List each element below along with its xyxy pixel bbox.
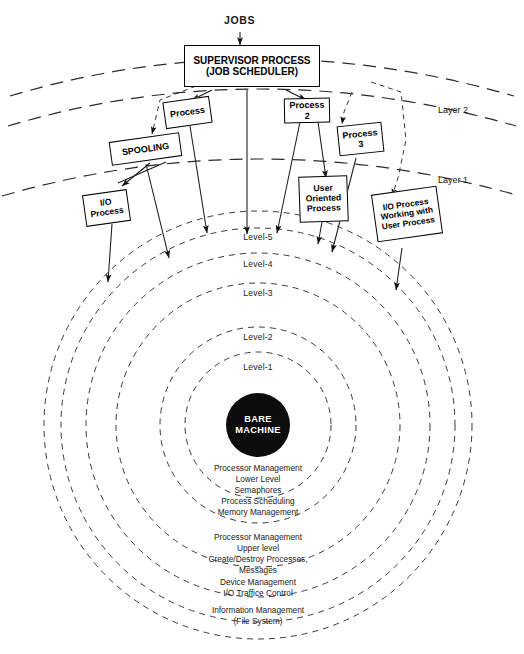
user-oriented-process-box[interactable]: User Oriented Process xyxy=(298,175,349,223)
line-spooling-io-b xyxy=(118,162,166,183)
dashed-process3-connector xyxy=(342,92,352,124)
l3-line-1: Processor Management xyxy=(208,532,307,543)
io-process-user-box[interactable]: I/O Process Working with User Process xyxy=(371,186,443,243)
core-line-1: BARE xyxy=(235,414,280,425)
process-label: Process xyxy=(169,105,205,120)
io-process-line-2: Process xyxy=(90,206,124,220)
process-3-box[interactable]: Process 3 xyxy=(337,122,385,157)
ring-label-level-2: Level-2 xyxy=(243,332,273,342)
ring-label-level-1: Level-1 xyxy=(243,362,273,372)
process-2-box[interactable]: Process 2 xyxy=(284,98,330,124)
arrow-spooling-ring xyxy=(146,164,169,258)
ring-label-level-5: Level-5 xyxy=(243,232,273,242)
l1-line-4: Process Scheduling xyxy=(214,496,302,507)
supervisor-line-1: SUPERVISOR PROCESS xyxy=(193,55,310,66)
level-5-description: Information Management (File System) xyxy=(212,605,304,627)
l5-line-1: Information Management xyxy=(212,605,304,616)
l4-line-2: I/O Traffice Control xyxy=(220,588,296,599)
l2-line-1: Memory Management xyxy=(218,507,299,518)
arrow-process2-user xyxy=(318,122,326,178)
supervisor-process-box[interactable]: SUPERVISOR PROCESS (JOB SCHEDULER) xyxy=(184,45,320,87)
layer-1-label: Layer 1 xyxy=(438,175,468,185)
process-2-line-1: Process xyxy=(289,100,324,111)
layer-2-label: Layer 2 xyxy=(438,105,468,115)
arrow-spooling-ioprocess xyxy=(122,163,150,186)
level-4-description: Device Management I/O Traffice Control xyxy=(220,577,296,599)
level-3-description: Processor Management Upper level Create/… xyxy=(208,532,307,576)
arrow-process2-level5 xyxy=(277,122,300,233)
arrow-ioprocess-ring xyxy=(108,224,112,282)
arrow-user-ring xyxy=(318,222,322,244)
l1-line-2: Lower Level xyxy=(214,474,302,485)
ring-label-level-4: Level-4 xyxy=(243,259,273,269)
user-oriented-line-3: Process xyxy=(307,203,341,214)
supervisor-line-2: (JOB SCHEDULER) xyxy=(206,66,298,77)
io-process-box[interactable]: I/O Process xyxy=(82,189,131,227)
arrow-process-level5 xyxy=(190,126,207,233)
l1-line-3: Semaphores xyxy=(214,485,302,496)
level-2-description: Memory Management xyxy=(218,507,299,518)
l4-line-1: Device Management xyxy=(220,577,296,588)
core-line-2: MACHINE xyxy=(235,425,280,436)
l3-line-2: Upper level xyxy=(208,543,307,554)
spooling-label: SPOOLING xyxy=(121,141,169,158)
ring-label-level-3: Level-3 xyxy=(243,288,273,298)
l1-line-1: Processor Management xyxy=(214,463,302,474)
process-3-line-2: 3 xyxy=(358,139,364,150)
arrow-iouser-ring xyxy=(396,248,402,290)
jobs-label: JOBS xyxy=(224,14,255,26)
l3-line-3: Create/Destroy Processes, xyxy=(208,554,307,565)
l5-line-2: (File System) xyxy=(212,616,304,627)
level-1-description: Processor Management Lower Level Semapho… xyxy=(214,463,302,507)
diagram-canvas: JOBS SUPERVISOR PROCESS (JOB SCHEDULER) … xyxy=(0,0,524,654)
process-2-line-2: 2 xyxy=(304,110,309,120)
l3-line-4: Messages xyxy=(208,565,307,576)
bare-machine-label: BARE MACHINE xyxy=(235,414,280,437)
